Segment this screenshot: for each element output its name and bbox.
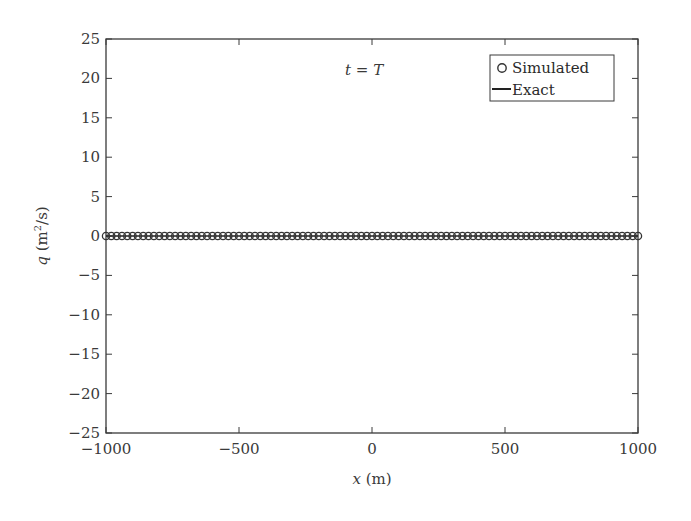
annotation-T: T xyxy=(373,61,384,79)
legend-label-exact: Exact xyxy=(512,81,555,99)
legend-label-simulated: Simulated xyxy=(512,59,590,77)
y-tick-label: −15 xyxy=(68,345,100,363)
chart-figure: 2520151050−5−10−15−20−25 −1000−500050010… xyxy=(0,0,691,521)
legend: Simulated Exact xyxy=(490,55,614,101)
y-tick-label: 15 xyxy=(81,109,100,127)
x-tick-label: 0 xyxy=(367,440,377,458)
x-axis-ticks: −1000−50005001000 xyxy=(81,39,657,458)
y-axis-unit-post: /s) xyxy=(33,206,51,225)
y-tick-label: 10 xyxy=(81,148,100,166)
x-tick-label: −1000 xyxy=(81,440,132,458)
y-axis-label: q (m2/s) xyxy=(32,206,51,265)
y-tick-label: 0 xyxy=(90,227,100,245)
y-axis-unit-pre: (m xyxy=(33,231,51,256)
y-tick-label: 5 xyxy=(90,188,100,206)
y-tick-label: −20 xyxy=(68,385,100,403)
y-tick-label: 20 xyxy=(81,69,100,87)
y-tick-label: −10 xyxy=(68,306,100,324)
x-tick-label: 500 xyxy=(491,440,520,458)
x-axis-label: x (m) xyxy=(352,470,391,488)
x-axis-unit: (m) xyxy=(361,470,392,488)
y-tick-label: 25 xyxy=(81,30,100,48)
x-tick-label: 1000 xyxy=(619,440,657,458)
y-axis-var: q xyxy=(33,256,51,266)
annotation-equals: = xyxy=(351,61,373,79)
x-tick-label: −500 xyxy=(218,440,259,458)
time-annotation: t = T xyxy=(345,61,384,79)
y-tick-label: −5 xyxy=(78,266,100,284)
